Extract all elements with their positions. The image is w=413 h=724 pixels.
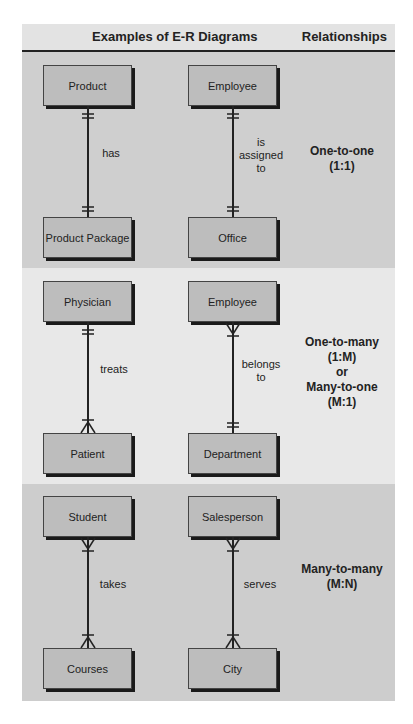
entity-physician: Physician (43, 281, 132, 322)
section-one-to-many: Physician treats Patient Employee belong… (22, 268, 395, 484)
entity-city: City (188, 648, 277, 689)
relationship-type-label: Many-to-many (M:N) (292, 562, 392, 592)
many-marker-icon (80, 633, 96, 648)
many-marker-icon (225, 323, 241, 338)
one-marker-icon (82, 112, 94, 122)
many-marker-icon (225, 538, 241, 553)
relationship-line (87, 106, 89, 217)
er-diagram-panel: Examples of E-R Diagrams Relationships P… (22, 24, 395, 701)
verb-label: takes (96, 578, 130, 591)
relationship-line (87, 322, 89, 433)
one-marker-icon (82, 205, 94, 215)
section-many-to-many: Student takes Courses Salesperson serves… (22, 484, 395, 701)
one-marker-icon (227, 112, 239, 122)
many-marker-icon (80, 418, 96, 433)
relationship-line (232, 106, 234, 217)
verb-label: treats (96, 363, 132, 376)
entity-student: Student (43, 496, 132, 537)
one-marker-icon (227, 205, 239, 215)
entity-product: Product (43, 65, 132, 106)
relationship-line (232, 322, 234, 433)
entity-patient: Patient (43, 433, 132, 474)
table-header: Examples of E-R Diagrams Relationships (22, 24, 395, 52)
verb-label: has (96, 147, 126, 160)
entity-office: Office (188, 217, 277, 258)
many-marker-icon (225, 633, 241, 648)
relationship-type-label: One-to-many (1:M) or Many-to-one (M:1) (292, 335, 392, 410)
entity-department: Department (188, 433, 277, 474)
verb-label: serves (240, 578, 280, 591)
verb-label: belongs to (236, 358, 286, 384)
section-one-to-one: Product has Product Package Employee is … (22, 52, 395, 268)
entity-courses: Courses (43, 648, 132, 689)
entity-salesperson: Salesperson (188, 496, 277, 537)
entity-product-package: Product Package (43, 217, 132, 258)
relationships-column-title: Relationships (302, 29, 387, 44)
relationship-line (87, 537, 89, 648)
one-marker-icon (227, 421, 239, 431)
entity-employee: Employee (188, 281, 277, 322)
one-marker-icon (82, 328, 94, 338)
relationship-type-label: One-to-one (1:1) (292, 144, 392, 174)
verb-label: is assigned to (236, 136, 286, 175)
many-marker-icon (80, 538, 96, 553)
entity-employee: Employee (188, 65, 277, 106)
diagrams-column-title: Examples of E-R Diagrams (92, 29, 257, 44)
relationship-line (232, 537, 234, 648)
